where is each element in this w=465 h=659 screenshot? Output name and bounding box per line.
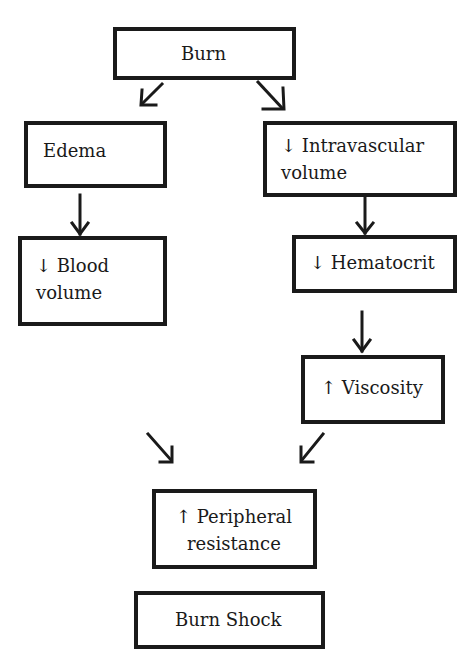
node-peripheral-line2: resistance <box>187 530 281 557</box>
arrow-intravascular-to-hematocrit <box>357 198 373 233</box>
node-intravascular-line1: ↓ Intravascular <box>281 132 424 159</box>
node-burn-shock: Burn Shock <box>134 591 325 649</box>
arrow-viscosity-to-peripheral <box>301 434 323 462</box>
arrow-edema-to-blood-volume <box>72 195 88 234</box>
node-blood-volume: ↓ Blood volume <box>18 236 167 326</box>
node-edema-label: Edema <box>43 137 106 164</box>
node-intravascular-line2: volume <box>281 159 347 186</box>
node-blood-volume-line2: volume <box>36 279 102 306</box>
arrow-burn-to-intravascular <box>258 82 284 109</box>
node-intravascular-volume: ↓ Intravascular volume <box>263 121 457 197</box>
node-blood-volume-line1: ↓ Blood <box>36 252 109 279</box>
arrow-burn-to-edema <box>141 84 162 105</box>
arrow-blood-volume-to-peripheral <box>148 434 172 462</box>
arrow-hematocrit-to-viscosity <box>354 312 370 351</box>
node-burn-label: Burn <box>181 40 226 67</box>
node-viscosity-label: ↑ Viscosity <box>321 374 423 401</box>
node-hematocrit: ↓ Hematocrit <box>292 235 457 293</box>
node-burn: Burn <box>113 27 296 80</box>
node-hematocrit-label: ↓ Hematocrit <box>310 249 435 276</box>
node-edema: Edema <box>24 121 167 188</box>
node-peripheral-line1: ↑ Peripheral <box>176 503 292 530</box>
node-burn-shock-label: Burn Shock <box>175 606 282 633</box>
node-viscosity: ↑ Viscosity <box>301 355 445 424</box>
node-peripheral-resistance: ↑ Peripheral resistance <box>152 489 317 569</box>
